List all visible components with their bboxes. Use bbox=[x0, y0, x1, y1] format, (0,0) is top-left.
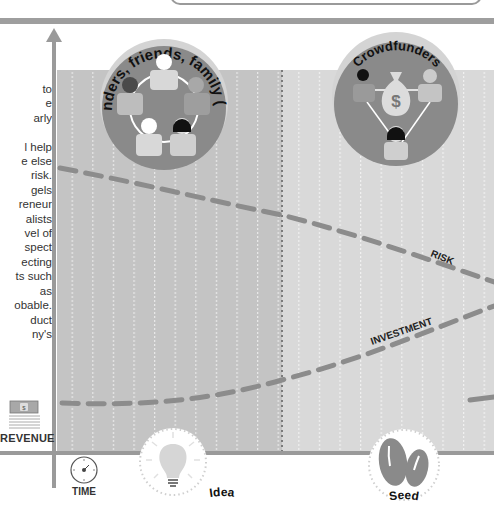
text-line: vel of bbox=[0, 226, 52, 240]
y-axis-label-group: REVENUE bbox=[0, 400, 54, 444]
text-line: ts such bbox=[0, 269, 52, 283]
seed-stage: Seed bbox=[368, 429, 440, 503]
crowdfunders-badge: Crowdfunders $ bbox=[332, 32, 460, 166]
text-line: spect bbox=[0, 240, 52, 254]
text-line: risk. bbox=[0, 168, 52, 182]
text-line: alists bbox=[0, 212, 52, 226]
left-description-text: to e arly l help e else risk. gels reneu… bbox=[0, 82, 52, 341]
idea-label: Idea bbox=[208, 485, 235, 500]
svg-text:$: $ bbox=[391, 92, 401, 111]
text-line: ny's bbox=[0, 327, 52, 341]
text-line bbox=[0, 125, 52, 139]
text-line: duct bbox=[0, 313, 52, 327]
text-line: e bbox=[0, 96, 52, 110]
text-line: reneur bbox=[0, 197, 52, 211]
y-axis-arrow-icon bbox=[46, 28, 62, 42]
time-label: TIME bbox=[64, 486, 104, 497]
revenue-label: REVENUE bbox=[0, 432, 54, 444]
text-line: ecting bbox=[0, 255, 52, 269]
text-line: to bbox=[0, 82, 52, 96]
text-line: arly bbox=[0, 111, 52, 125]
text-line: e else bbox=[0, 154, 52, 168]
text-line: obable. bbox=[0, 298, 52, 312]
text-line: as bbox=[0, 284, 52, 298]
text-line: l help bbox=[0, 140, 52, 154]
x-axis-label-group: TIME bbox=[64, 462, 104, 497]
text-line: gels bbox=[0, 183, 52, 197]
funding-diagram: RISK INVESTMENT Founders, friends, famil… bbox=[0, 0, 494, 518]
